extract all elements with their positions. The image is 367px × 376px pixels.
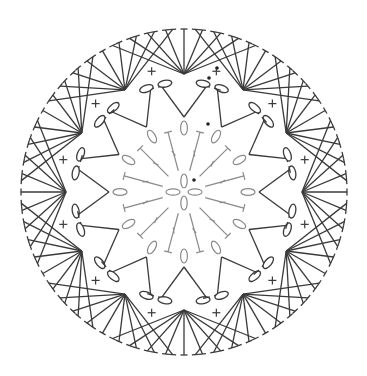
- round2-dc-stitch: [222, 112, 257, 127]
- round2-dc-stitch: [249, 225, 287, 229]
- round2-dc-stitch: [184, 267, 206, 298]
- round2-dc-stitch: [249, 155, 287, 159]
- round1-dc-bar: [142, 181, 148, 182]
- round1-chain: [210, 129, 223, 145]
- round1-chain: [146, 129, 159, 145]
- start-marker-dot: [192, 178, 196, 182]
- round1-dc-stitch: [200, 208, 228, 236]
- center-chain: [188, 189, 202, 195]
- fan-treble-top: [199, 30, 206, 31]
- round2-chain: [282, 147, 293, 162]
- round2-dc-stitch: [217, 89, 221, 127]
- round2-dc-stitch: [259, 170, 290, 192]
- fan-treble-top: [346, 170, 347, 177]
- round2-dc-stitch: [104, 230, 119, 265]
- round2-dc-stitch: [259, 192, 290, 214]
- round1-dc-stitch: [200, 148, 228, 176]
- round2-chain: [71, 165, 80, 180]
- round1-dc-stitch: [168, 132, 178, 171]
- round1-dc-bar: [153, 162, 158, 165]
- round2-chain: [139, 83, 154, 94]
- round1-chain: [121, 218, 137, 231]
- round2-dc-stitch: [78, 192, 109, 214]
- round2-chain: [196, 79, 211, 88]
- round1-chain: [113, 189, 127, 196]
- start-marker-dot: [206, 122, 210, 126]
- round2-dc-stitch: [162, 267, 184, 298]
- round2-dc-stitch: [249, 230, 264, 265]
- round1-chain: [232, 154, 248, 167]
- fan-treble-top: [23, 159, 24, 166]
- fan-treble-stitch: [243, 294, 281, 323]
- start-marker-dot: [215, 66, 219, 70]
- round2-dc-stitch: [104, 120, 119, 155]
- round2-dc-stitch: [249, 120, 264, 155]
- round2-dc-stitch: [81, 225, 119, 229]
- fan-treble-top: [144, 350, 151, 352]
- round1-chain: [146, 240, 159, 256]
- round2-chain: [157, 79, 172, 88]
- fan-treble-top: [344, 159, 345, 166]
- center-chain: [181, 174, 187, 188]
- round2-chain: [288, 204, 297, 219]
- fan-treble-top: [162, 30, 169, 31]
- round1-dc-bar: [210, 219, 215, 222]
- crochet-chart: [0, 0, 367, 376]
- fan-treble-stitch: [87, 61, 125, 90]
- fan-treble-top: [210, 31, 217, 32]
- fan-treble-stitch: [53, 251, 82, 289]
- round1-chain: [181, 121, 188, 135]
- fan-treble-top: [342, 152, 344, 159]
- fan-treble-top: [24, 225, 26, 232]
- fan-treble-stitch: [243, 61, 281, 90]
- fan-treble-top: [342, 225, 344, 232]
- fan-treble-top: [217, 350, 224, 352]
- round1-dc-bar: [194, 150, 195, 156]
- round1-chain: [181, 249, 188, 263]
- start-marker-dot: [207, 76, 211, 80]
- round2-chain: [75, 222, 86, 237]
- round1-dc-bar: [220, 202, 226, 203]
- round2-dc-stitch: [81, 155, 119, 159]
- fan-treble-top: [144, 32, 151, 34]
- fan-treble-top: [210, 352, 217, 353]
- fan-treble-stitch: [286, 95, 315, 133]
- fan-treble-top: [217, 32, 224, 34]
- round1-dc-bar: [154, 218, 157, 223]
- round1-dc-stitch: [190, 213, 200, 252]
- fan-treble-top: [162, 354, 169, 355]
- round1-dc-stitch: [140, 208, 168, 236]
- round1-dc-stitch: [140, 148, 168, 176]
- fan-treble-top: [199, 354, 206, 355]
- round1-chain: [232, 218, 248, 231]
- fan-treble-top: [151, 31, 158, 32]
- center-chain: [181, 196, 187, 210]
- fan-treble-stitch: [286, 251, 315, 289]
- round2-dc-stitch: [147, 257, 151, 295]
- round1-dc-stitch: [124, 198, 163, 208]
- round2-dc-stitch: [184, 86, 206, 117]
- fan-treble-top: [22, 207, 23, 214]
- round2-dc-stitch: [222, 257, 257, 272]
- round2-dc-stitch: [112, 257, 147, 272]
- round2-dc-stitch: [147, 89, 151, 127]
- round1-chain: [121, 154, 137, 167]
- round1-dc-stitch: [124, 176, 163, 186]
- round1-dc-stitch: [168, 213, 178, 252]
- round2-dc-stitch: [78, 170, 109, 192]
- round1-dc-bar: [211, 161, 214, 166]
- round1-chain: [210, 240, 223, 256]
- fan-treble-stitch: [87, 294, 125, 323]
- round1-dc-stitch: [205, 176, 244, 186]
- round2-chain: [214, 290, 229, 301]
- fan-treble-top: [22, 170, 23, 177]
- fan-treble-top: [346, 207, 347, 214]
- fan-treble-top: [344, 218, 345, 225]
- round1-dc-stitch: [205, 198, 244, 208]
- round1-chain: [241, 189, 255, 196]
- fan-treble-top: [24, 152, 26, 159]
- fan-treble-top: [151, 352, 158, 353]
- round1-dc-stitch: [190, 132, 200, 171]
- round2-dc-stitch: [217, 257, 221, 295]
- round2-dc-stitch: [112, 112, 147, 127]
